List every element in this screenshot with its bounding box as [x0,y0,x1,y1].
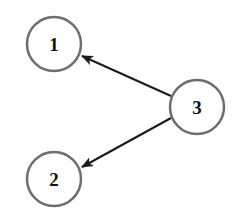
edge-3-to-2 [82,118,171,167]
node-1-label: 1 [49,34,59,55]
node-3-label: 3 [192,97,202,118]
node-2-label: 2 [49,169,59,190]
node-2: 2 [27,152,81,206]
edge-3-to-1 [82,56,171,96]
node-1: 1 [27,17,81,71]
node-3: 3 [170,80,224,134]
graph-canvas: 1 2 3 [0,0,241,212]
